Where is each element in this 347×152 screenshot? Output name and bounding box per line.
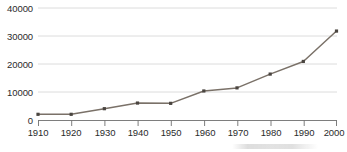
data-point-1950 <box>169 102 172 105</box>
y-tick-label-0: 0 <box>28 115 33 126</box>
data-point-1970 <box>235 86 238 89</box>
data-series <box>36 29 338 115</box>
data-point-2000 <box>335 29 338 32</box>
x-tick-label-1980: 1980 <box>261 127 282 138</box>
data-point-1940 <box>136 101 139 104</box>
x-tick-label-1930: 1930 <box>95 127 116 138</box>
x-tick-label-1960: 1960 <box>195 127 216 138</box>
line-chart: 40000 30000 20000 10000 0 1910 1920 1930… <box>0 0 347 152</box>
x-axis <box>38 121 337 127</box>
y-tick-label-20000: 20000 <box>7 59 33 70</box>
data-point-1990 <box>302 60 305 63</box>
x-tick-label-1950: 1950 <box>161 127 182 138</box>
gridlines <box>38 8 337 92</box>
data-point-1910 <box>36 113 39 116</box>
data-point-1920 <box>70 113 73 116</box>
y-tick-label-10000: 10000 <box>7 87 33 98</box>
x-tick-label-1970: 1970 <box>228 127 249 138</box>
y-tick-label-30000: 30000 <box>7 31 33 42</box>
x-tick-label-1920: 1920 <box>61 127 82 138</box>
x-tick-label-2000: 2000 <box>324 127 345 138</box>
y-axis-tick-labels: 40000 30000 20000 10000 0 <box>7 3 33 126</box>
x-tick-label-1940: 1940 <box>128 127 149 138</box>
series-line <box>38 31 337 114</box>
data-point-1960 <box>202 89 205 92</box>
data-point-1930 <box>103 107 106 110</box>
series-markers <box>36 29 338 115</box>
data-point-1980 <box>269 72 272 75</box>
x-tick-label-1910: 1910 <box>28 127 49 138</box>
chart-canvas: 40000 30000 20000 10000 0 1910 1920 1930… <box>0 0 347 152</box>
y-tick-label-40000: 40000 <box>7 3 33 14</box>
x-tick-label-1990: 1990 <box>294 127 315 138</box>
x-axis-tick-labels: 1910 1920 1930 1940 1950 1960 1970 1980 … <box>28 127 345 138</box>
